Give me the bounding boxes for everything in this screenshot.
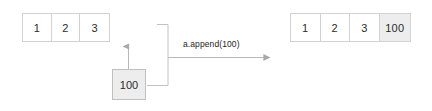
array-after-cell-2: 3	[350, 14, 380, 41]
array-after-cell-1: 2	[321, 14, 351, 41]
array-after-cell-0: 1	[291, 14, 321, 41]
grouping-bracket	[147, 25, 168, 86]
array-after-cell-3: 100	[380, 14, 410, 41]
array-after: 1 2 3 100	[290, 13, 411, 42]
diagram-canvas: 1 2 3 100 a.append(100) 1 2 3 100	[0, 0, 432, 111]
operation-label: a.append(100)	[183, 39, 240, 49]
